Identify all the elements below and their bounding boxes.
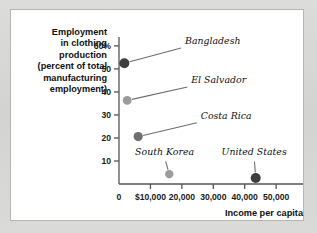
x-axis-tick-label: 40,000 — [232, 192, 259, 202]
data-point-label: South Korea — [135, 146, 194, 157]
y-axis-title-line: production — [59, 50, 107, 60]
data-point-label: Bangladesh — [184, 35, 241, 46]
data-point-label: El Salvador — [190, 74, 246, 85]
leader-line — [143, 123, 197, 136]
y-axis-tick-label: 60% — [94, 41, 112, 51]
y-axis-title-line: employment) — [50, 84, 107, 94]
data-point-label: United States — [222, 146, 287, 157]
leader-line — [254, 162, 255, 173]
x-axis-title: Income per capita — [225, 208, 304, 218]
x-axis-tick-label: $10,000 — [135, 192, 166, 202]
data-point[interactable] — [251, 173, 261, 183]
x-axis-tick-label: 30,000 — [200, 192, 227, 202]
y-axis-tick-label: 40 — [101, 87, 111, 97]
y-axis-title-line: manufacturing — [43, 73, 107, 83]
data-point[interactable] — [134, 132, 143, 141]
x-axis-tick-label: 20,000 — [169, 192, 196, 202]
y-axis-tick-label: 10 — [101, 156, 111, 166]
data-point-label: Costa Rica — [201, 110, 252, 121]
y-axis-title-line: Employment — [52, 27, 107, 37]
data-point[interactable] — [119, 58, 129, 68]
scatter-chart: Employmentin clothingproduction(percent … — [11, 10, 305, 222]
y-axis-tick-label: 30 — [101, 110, 111, 120]
data-point[interactable] — [165, 170, 173, 178]
y-axis-title-line: (percent of total — [38, 61, 107, 71]
screenshot-root: Employmentin clothingproduction(percent … — [0, 0, 317, 233]
leader-line — [132, 87, 187, 99]
y-axis-tick-label: 20 — [101, 133, 111, 143]
figure-card: Employmentin clothingproduction(percent … — [10, 9, 304, 221]
y-axis-tick-label: 50 — [101, 64, 111, 74]
x-axis-tick-label: 50,000 — [263, 192, 290, 202]
x-axis-tick-label: 0 — [117, 192, 122, 202]
leader-line — [130, 48, 181, 62]
chart-container: Employmentin clothingproduction(percent … — [11, 10, 305, 222]
leader-line — [166, 161, 168, 169]
data-point[interactable] — [123, 96, 132, 105]
